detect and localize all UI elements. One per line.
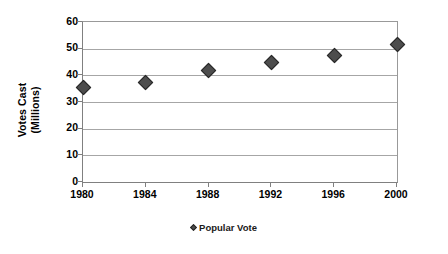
data-point-marker	[138, 74, 154, 90]
x-axis-tick-label: 1996	[303, 188, 363, 200]
y-axis-tick-label: 30	[52, 96, 78, 107]
x-axis-tick	[396, 183, 397, 187]
x-axis-tick-label: 1984	[115, 188, 175, 200]
plot-area	[82, 21, 398, 183]
x-axis-tick	[270, 183, 271, 187]
data-point-marker	[389, 37, 405, 53]
data-point-marker	[326, 48, 342, 64]
y-axis-tick-label: 20	[52, 122, 78, 133]
gridline	[83, 155, 397, 156]
x-axis-tick-label: 1992	[240, 188, 300, 200]
y-axis-tick-label: 0	[52, 176, 78, 187]
gridline	[83, 102, 397, 103]
diamond-marker-icon	[190, 224, 197, 231]
x-axis-tick-label: 1988	[178, 188, 238, 200]
y-axis-title-line-1: Votes Cast	[16, 83, 29, 138]
gridline	[83, 129, 397, 130]
x-axis-tick-labels: 198019841988199219962000	[82, 188, 398, 204]
y-axis-tick-label: 40	[52, 69, 78, 80]
x-axis-tick-label: 1980	[52, 188, 112, 200]
x-axis-tick	[208, 183, 209, 187]
y-axis-tick-label: 10	[52, 149, 78, 160]
y-axis-tick-labels: 0102030405060	[50, 21, 78, 183]
legend-item-popular-vote: Popular Vote	[199, 222, 257, 233]
data-point-marker	[264, 54, 280, 70]
x-axis-tick	[145, 183, 146, 187]
gridline	[83, 75, 397, 76]
chart-container: Votes Cast (Millions) 0102030405060 1980…	[0, 0, 448, 254]
x-axis-tick	[82, 183, 83, 187]
y-axis-tick-label: 50	[52, 42, 78, 53]
y-axis-title: Votes Cast (Millions)	[6, 55, 52, 165]
x-axis-tick-label: 2000	[366, 188, 426, 200]
x-axis-tick	[333, 183, 334, 187]
chart-legend: Popular Vote	[0, 222, 448, 233]
gridline	[83, 49, 397, 50]
y-axis-tick-label: 60	[52, 16, 78, 27]
y-axis-title-line-2: (Millions)	[29, 83, 42, 138]
